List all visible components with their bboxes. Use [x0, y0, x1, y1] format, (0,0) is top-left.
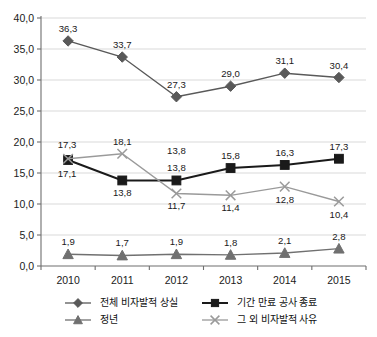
legend-label: 정년 — [100, 314, 118, 325]
data-point-label: 1,9 — [170, 236, 183, 247]
data-point-label: 2,8 — [332, 231, 345, 242]
y-tick-label: 0,0 — [19, 260, 34, 272]
square-marker — [226, 164, 235, 173]
y-tick-label: 35,0 — [14, 43, 35, 55]
data-point-label: 10,4 — [330, 209, 349, 220]
data-point-label: 12,8 — [275, 194, 294, 205]
y-tick-label: 15,0 — [14, 167, 35, 179]
x-tick-label: 2012 — [165, 274, 189, 286]
square-marker — [64, 156, 73, 165]
x-tick-label: 2013 — [219, 274, 243, 286]
legend-label: 기간 만료 공사 종료 — [237, 297, 317, 308]
data-point-label: 1,8 — [224, 237, 237, 248]
data-point-label: 13,8 — [167, 145, 186, 156]
data-point-label: 11,7 — [167, 200, 185, 211]
data-point-label: 18,1 — [113, 136, 132, 147]
legend-label: 그 외 비자발적 사유 — [237, 314, 317, 325]
chart-background — [0, 0, 377, 337]
data-point-label: 31,1 — [275, 55, 294, 66]
y-tick-label: 10,0 — [14, 198, 35, 210]
data-point — [280, 161, 289, 170]
y-tick-label: 20,0 — [14, 136, 35, 148]
data-point-label: 29,0 — [221, 68, 240, 79]
square-marker — [172, 176, 181, 185]
square-marker — [335, 154, 344, 163]
data-point-label: 2,1 — [278, 235, 291, 246]
y-tick-label: 30,0 — [14, 74, 35, 86]
data-point — [226, 164, 235, 173]
line-chart: 0,05,010,015,020,025,030,035,040,0 20102… — [0, 0, 377, 337]
legend-label: 전체 비자발적 상실 — [100, 297, 178, 308]
y-tick-label: 5,0 — [19, 229, 34, 241]
data-point — [64, 156, 73, 165]
square-marker — [211, 299, 218, 306]
data-point-label: 16,3 — [275, 147, 294, 158]
data-point-label: 17,1 — [58, 168, 77, 179]
data-point-label: 1,9 — [61, 236, 74, 247]
data-point-label: 11,4 — [222, 202, 241, 213]
data-point-label: 13,8 — [167, 162, 186, 173]
data-point-label: 1,7 — [116, 237, 129, 248]
x-tick-label: 2010 — [56, 274, 80, 286]
square-marker — [280, 161, 289, 170]
x-tick-label: 2015 — [327, 274, 351, 286]
x-tick-label: 2011 — [111, 274, 134, 286]
data-point — [335, 154, 344, 163]
data-point — [118, 176, 127, 185]
data-point-label: 15,8 — [221, 150, 240, 161]
data-point-label: 17,3 — [330, 141, 349, 152]
square-marker — [118, 176, 127, 185]
data-point-label: 33,7 — [113, 39, 132, 50]
y-tick-label: 40,0 — [14, 12, 35, 24]
data-point-label: 36,3 — [59, 23, 78, 34]
data-point-label: 27,3 — [167, 79, 186, 90]
data-point-label: 17,3 — [58, 139, 77, 150]
x-tick-label: 2014 — [273, 274, 297, 286]
chart-container: 0,05,010,015,020,025,030,035,040,0 20102… — [0, 0, 377, 337]
y-tick-label: 25,0 — [14, 105, 35, 117]
data-point-label: 13,8 — [113, 187, 132, 198]
data-point — [172, 176, 181, 185]
data-point-label: 30,4 — [330, 60, 349, 71]
legend-marker — [211, 299, 218, 306]
